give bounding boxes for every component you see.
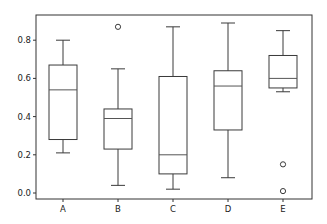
x-tick-label: E xyxy=(280,204,285,214)
y-tick-label: 0.8 xyxy=(17,35,31,45)
iqr-box xyxy=(214,71,242,130)
box-c xyxy=(159,27,187,189)
outlier-point xyxy=(280,162,285,167)
outlier-point xyxy=(115,24,120,29)
y-tick-label: 0.4 xyxy=(17,112,31,122)
x-tick-label: D xyxy=(225,204,232,214)
x-tick-label: B xyxy=(115,204,121,214)
iqr-box xyxy=(159,76,187,173)
box-a xyxy=(49,40,77,153)
x-tick-label: C xyxy=(170,204,176,214)
y-axis: 0.00.20.40.60.8 xyxy=(17,35,36,198)
x-axis: ABCDE xyxy=(60,199,286,214)
box-e xyxy=(269,31,297,194)
iqr-box xyxy=(269,55,297,87)
box-d xyxy=(214,23,242,178)
boxes xyxy=(49,23,297,194)
outlier-point xyxy=(280,188,285,193)
x-tick-label: A xyxy=(60,204,66,214)
iqr-box xyxy=(104,109,132,149)
y-tick-label: 0.0 xyxy=(17,188,31,198)
y-tick-label: 0.2 xyxy=(17,150,31,160)
y-tick-label: 0.6 xyxy=(17,73,31,83)
box-plot-chart: 0.00.20.40.60.8 ABCDE xyxy=(0,0,327,224)
iqr-box xyxy=(49,65,77,139)
box-b xyxy=(104,24,132,185)
